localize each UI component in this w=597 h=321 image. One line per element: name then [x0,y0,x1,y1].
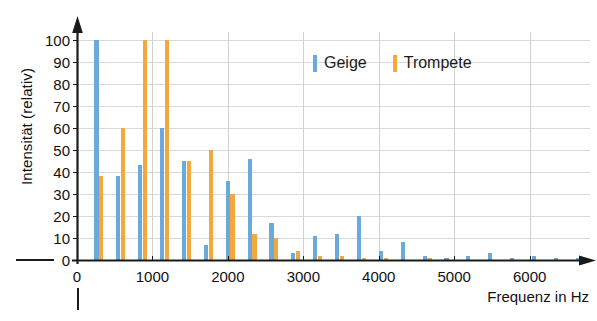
bar [94,40,98,260]
bar [248,159,252,260]
x-tick-label: 6000 [513,268,546,285]
x-tick-mark [228,256,229,261]
x-tick-mark [454,256,455,261]
y-tick-label: 90 [28,55,70,70]
bar [138,165,142,260]
x-tick-label: 2000 [211,268,244,285]
y-axis-line [70,14,86,264]
legend-label-trompete: Trompete [404,54,472,72]
bar [230,194,234,260]
bar [121,128,125,260]
gridline [77,40,590,41]
bar [99,176,103,260]
bar [187,161,191,260]
x-tick-mark [530,256,531,261]
gridline-vertical [303,32,304,260]
y-tick-mark [73,238,77,239]
gridline-vertical [152,32,153,260]
y-tick-label: 100 [28,33,70,48]
y-tick-mark [73,216,77,217]
legend-label-geige: Geige [324,54,367,72]
y-tick-label: 10 [28,231,70,246]
x-tick-label: 1000 [136,268,169,285]
x-tick-label: 5000 [438,268,471,285]
x-tick-label: 3000 [287,268,320,285]
y-tick-label: 80 [28,77,70,92]
x-axis-tick-labels: 0100020003000400050006000 [0,262,597,284]
y-tick-mark [73,150,77,151]
y-tick-mark [73,172,77,173]
x-tick-label: 4000 [362,268,395,285]
x-tick-mark [303,256,304,261]
y-tick-mark [73,106,77,107]
origin-marker [77,288,79,310]
gridline [77,84,590,85]
bar [209,150,213,260]
x-tick-mark [152,256,153,261]
zero-baseline-stub [16,259,54,261]
gridline [77,172,590,173]
y-tick-label: 70 [28,99,70,114]
bar [165,40,169,260]
y-tick-label: 40 [28,165,70,180]
gridline [77,238,590,239]
y-tick-mark [73,84,77,85]
gridline [77,150,590,151]
x-tick-mark [77,256,78,261]
legend: Geige Trompete [313,54,472,72]
bar [182,161,186,260]
gridline-vertical [530,32,531,260]
frequency-spectrum-chart: Intensität (relativ) 0102030405060708090… [0,0,597,321]
bar [226,181,230,260]
x-tick-mark [379,256,380,261]
gridline [77,128,590,129]
legend-item-geige: Geige [313,54,367,72]
gridline [77,194,590,195]
x-tick-label: 0 [73,268,81,285]
bar [160,128,164,260]
y-tick-mark [73,62,77,63]
y-tick-label: 20 [28,209,70,224]
bar [116,176,120,260]
y-tick-label: 30 [28,187,70,202]
bar [143,40,147,260]
gridline [77,216,590,217]
legend-swatch-trompete [393,55,397,72]
y-tick-label: 60 [28,121,70,136]
gridline [77,106,590,107]
y-tick-mark [73,128,77,129]
y-tick-label: 50 [28,143,70,158]
y-tick-mark [73,40,77,41]
x-axis-label: Frequenz in Hz [487,288,589,305]
legend-item-trompete: Trompete [393,54,472,72]
legend-swatch-geige [313,55,317,72]
y-tick-mark [73,194,77,195]
